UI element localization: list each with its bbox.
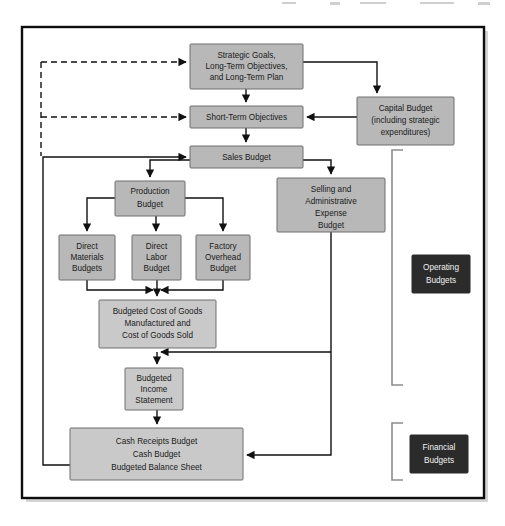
figure-page: Strategic Goals, Long-Term Objectives, a… bbox=[0, 0, 505, 526]
income-statement-line-3: Statement bbox=[135, 396, 173, 405]
factory-overhead-node[interactable]: Factory Overhead Budget bbox=[196, 235, 250, 280]
direct-labor-node[interactable]: Direct Labor Budget bbox=[132, 235, 181, 280]
strategic-goals-line-3: and Long-Term Plan bbox=[210, 73, 284, 82]
financial-budgets-line-2: Budgets bbox=[424, 456, 454, 465]
production-budget-line-1: Production bbox=[130, 187, 170, 196]
budgeted-income-statement-node[interactable]: Budgeted Income Statement bbox=[125, 368, 183, 410]
selling-admin-line-1: Selling and bbox=[311, 185, 352, 194]
operating-budgets-group[interactable]: Operating Budgets bbox=[412, 255, 470, 293]
factory-overhead-line-2: Overhead bbox=[205, 253, 241, 262]
selling-admin-line-3: Expense bbox=[315, 209, 347, 218]
strategic-goals-line-1: Strategic Goals, bbox=[217, 51, 275, 60]
direct-labor-line-2: Labor bbox=[146, 253, 167, 262]
budgeted-cogm-node[interactable]: Budgeted Cost of Goods Manufactured and … bbox=[99, 300, 216, 348]
financial-budgets-line-1: Financial bbox=[423, 443, 456, 452]
capital-budget-line-3: expenditures) bbox=[381, 128, 431, 137]
income-statement-line-2: Income bbox=[141, 385, 168, 394]
scan-top-marks bbox=[282, 2, 490, 5]
strategic-goals-node[interactable]: Strategic Goals, Long-Term Objectives, a… bbox=[190, 44, 303, 89]
cash-budgets-node[interactable]: Cash Receipts Budget Cash Budget Budgete… bbox=[70, 428, 243, 480]
selling-admin-line-4: Budget bbox=[318, 221, 345, 230]
master-budget-flowchart: Strategic Goals, Long-Term Objectives, a… bbox=[0, 0, 505, 526]
cash-budgets-line-2: Cash Budget bbox=[133, 450, 181, 459]
production-budget-line-2: Budget bbox=[137, 200, 164, 209]
direct-materials-line-3: Budgets bbox=[72, 264, 102, 273]
sales-budget-node[interactable]: Sales Budget bbox=[190, 146, 303, 168]
selling-admin-line-2: Administrative bbox=[305, 197, 357, 206]
operating-budgets-line-2: Budgets bbox=[426, 276, 456, 285]
direct-materials-line-2: Materials bbox=[70, 253, 103, 262]
short-term-objectives-label: Short-Term Objectives bbox=[206, 113, 287, 122]
financial-budgets-label-box[interactable] bbox=[410, 435, 468, 473]
direct-materials-node[interactable]: Direct Materials Budgets bbox=[59, 235, 115, 280]
financial-budgets-group[interactable]: Financial Budgets bbox=[410, 435, 468, 473]
selling-admin-budget-node[interactable]: Selling and Administrative Expense Budge… bbox=[277, 178, 385, 232]
capital-budget-node[interactable]: Capital Budget (including strategic expe… bbox=[357, 97, 454, 145]
income-statement-line-1: Budgeted bbox=[136, 374, 172, 383]
production-budget-node[interactable]: Production Budget bbox=[115, 181, 185, 216]
budgeted-cogm-line-2: Manufactured and bbox=[125, 319, 191, 328]
capital-budget-line-1: Capital Budget bbox=[379, 104, 433, 113]
cash-budgets-line-3: Budgeted Balance Sheet bbox=[111, 463, 202, 472]
cash-budgets-line-1: Cash Receipts Budget bbox=[116, 437, 198, 446]
short-term-objectives-node[interactable]: Short-Term Objectives bbox=[190, 106, 303, 128]
capital-budget-line-2: (including strategic bbox=[371, 116, 439, 125]
budgeted-cogm-line-1: Budgeted Cost of Goods bbox=[113, 307, 203, 316]
sales-budget-label: Sales Budget bbox=[222, 153, 271, 162]
direct-labor-line-3: Budget bbox=[144, 264, 171, 273]
operating-budgets-label-box[interactable] bbox=[412, 255, 470, 293]
factory-overhead-line-3: Budget bbox=[210, 264, 237, 273]
strategic-goals-line-2: Long-Term Objectives, bbox=[206, 62, 288, 71]
factory-overhead-line-1: Factory bbox=[209, 242, 237, 251]
direct-labor-line-1: Direct bbox=[146, 242, 168, 251]
direct-materials-line-1: Direct bbox=[76, 242, 98, 251]
budgeted-cogm-line-3: Cost of Goods Sold bbox=[122, 331, 193, 340]
operating-budgets-line-1: Operating bbox=[423, 263, 459, 272]
